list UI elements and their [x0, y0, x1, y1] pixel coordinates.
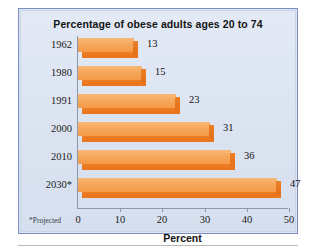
bar-end-cap — [175, 97, 180, 111]
x-tick-mark — [120, 208, 121, 212]
bar-bottom-face — [82, 80, 146, 86]
bar-bottom-face — [82, 108, 180, 114]
x-axis-title: Percent — [77, 232, 288, 244]
bar-value-label: 15 — [155, 66, 166, 77]
bar-value-label: 31 — [223, 122, 234, 133]
chart-footnote: *Projected — [29, 216, 61, 225]
bar-category-label: 2000 — [21, 123, 72, 134]
bar-front-face — [78, 94, 176, 108]
bar-row: 201036 — [21, 148, 299, 176]
x-axis-ticks: 01020304050 — [21, 208, 299, 232]
bar-row: 200031 — [21, 120, 299, 148]
bar-value-label: 23 — [189, 94, 200, 105]
bar-bottom-face — [82, 192, 281, 198]
bar-end-cap — [133, 41, 138, 55]
bar-row: 2030*47 — [21, 176, 299, 204]
x-tick-mark — [162, 208, 163, 212]
bar-front-face — [78, 150, 231, 164]
bar-end-cap — [276, 181, 281, 195]
bar — [78, 178, 281, 199]
bar-category-label: 2010 — [21, 151, 72, 162]
bar-category-label: 2030* — [21, 179, 72, 190]
chart-panel-inner: Percentage of obese adults ages 20 to 74… — [20, 10, 296, 232]
bar-front-face — [78, 66, 142, 80]
bar-category-label: 1980 — [21, 67, 72, 78]
chart-figure: Percentage of obese adults ages 20 to 74… — [0, 0, 316, 251]
bar — [78, 66, 146, 87]
x-tick-mark — [247, 208, 248, 212]
bar-front-face — [78, 122, 210, 136]
bar-bottom-face — [82, 52, 138, 58]
bar-bottom-face — [82, 164, 235, 170]
x-tick-label: 10 — [115, 214, 126, 225]
x-tick-label: 20 — [157, 214, 168, 225]
bar-value-label: 36 — [244, 150, 255, 161]
x-tick-mark — [289, 208, 290, 212]
bar-end-cap — [141, 69, 146, 83]
bottom-divider — [18, 245, 298, 246]
bar — [78, 94, 180, 115]
x-tick-label: 30 — [200, 214, 211, 225]
bar-rows: 1962131980151991232000312010362030*47 — [21, 33, 299, 205]
chart-panel: Percentage of obese adults ages 20 to 74… — [18, 8, 298, 234]
x-tick-label: 50 — [284, 214, 295, 225]
bar — [78, 38, 138, 59]
bar-row: 198015 — [21, 64, 299, 92]
x-tick-label: 40 — [242, 214, 253, 225]
bar-category-label: 1991 — [21, 95, 72, 106]
bar — [78, 122, 214, 143]
bar-value-label: 13 — [147, 38, 158, 49]
bar-value-label: 47 — [290, 178, 301, 189]
bar-bottom-face — [82, 136, 214, 142]
x-tick-mark — [205, 208, 206, 212]
bar-category-label: 1962 — [21, 39, 72, 50]
bar-row: 196213 — [21, 36, 299, 64]
plot-area: 1962131980151991232000312010362030*47 01… — [21, 33, 299, 213]
bar-row: 199123 — [21, 92, 299, 120]
chart-title: Percentage of obese adults ages 20 to 74 — [21, 18, 295, 30]
bar-front-face — [78, 178, 277, 192]
bar-front-face — [78, 38, 134, 52]
bar — [78, 150, 235, 171]
x-tick-label: 0 — [75, 214, 80, 225]
bar-end-cap — [230, 153, 235, 167]
bar-end-cap — [209, 125, 214, 139]
